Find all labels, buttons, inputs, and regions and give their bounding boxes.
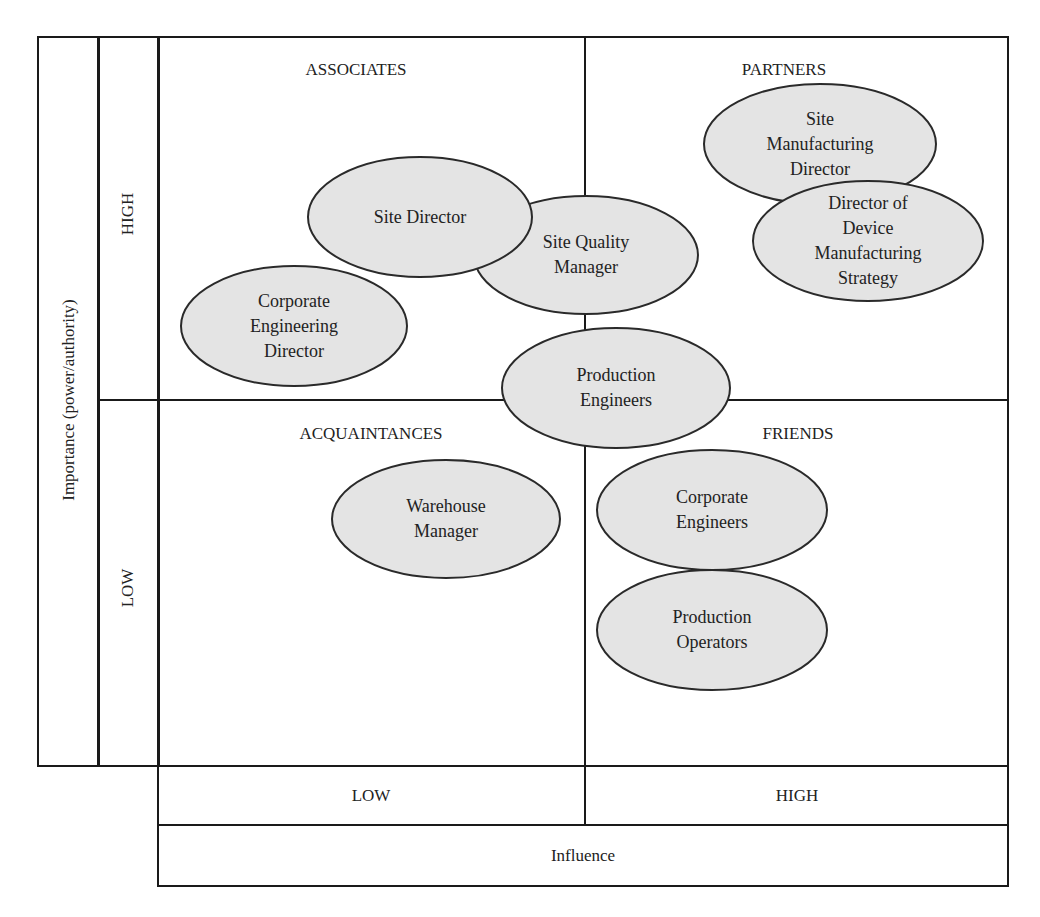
stakeholder-shape	[0, 0, 1040, 917]
stakeholder-label-production-operators: ProductionOperators	[673, 605, 752, 655]
stakeholder-label-line: Operators	[673, 630, 752, 655]
stakeholder-label-line: Production	[673, 605, 752, 630]
